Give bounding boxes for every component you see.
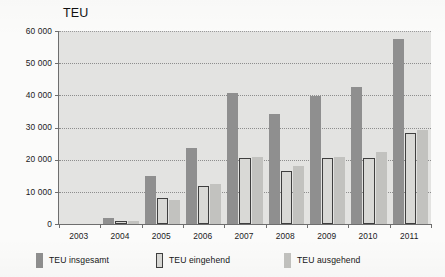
legend-swatch-icon-insgesamt: [36, 253, 43, 268]
bar-2009-series-2[interactable]: [334, 157, 345, 224]
gridline: [59, 128, 431, 129]
y-axis-label: 60 000: [0, 26, 52, 36]
legend-swatch-icon-eingehend: [156, 253, 163, 268]
gridline: [59, 63, 431, 64]
y-axis-label: 50 000: [0, 58, 52, 68]
bar-2004-series-2[interactable]: [128, 221, 139, 224]
x-axis-label-2007: 2007: [224, 231, 264, 241]
gridline: [59, 95, 431, 96]
chart-figure: TEU TEU insgesamt TEU eingehend TEU ausg…: [0, 0, 445, 277]
bar-2011-series-1[interactable]: [405, 133, 416, 224]
x-axis-tick: [431, 224, 432, 228]
bar-2008-series-0[interactable]: [269, 114, 280, 224]
y-axis-tick: [55, 128, 59, 129]
x-axis-tick: [266, 224, 267, 228]
x-axis-tick: [307, 224, 308, 228]
x-axis-label-2003: 2003: [59, 231, 99, 241]
bar-2009-series-1[interactable]: [322, 158, 333, 224]
y-axis-tick: [55, 31, 59, 32]
bar-2005-series-2[interactable]: [169, 200, 180, 224]
x-axis-label-2010: 2010: [348, 231, 388, 241]
bar-2005-series-1[interactable]: [157, 198, 168, 224]
bar-2006-series-0[interactable]: [186, 148, 197, 224]
y-axis-tick: [55, 160, 59, 161]
bar-2011-series-0[interactable]: [393, 39, 404, 224]
bar-2008-series-1[interactable]: [281, 171, 292, 224]
bar-2007-series-1[interactable]: [239, 158, 250, 224]
gridline: [59, 31, 431, 32]
bar-2006-series-2[interactable]: [210, 184, 221, 224]
bar-2008-series-2[interactable]: [293, 166, 304, 224]
x-axis-label-2008: 2008: [265, 231, 305, 241]
bar-2007-series-0[interactable]: [227, 93, 238, 224]
bar-2004-series-1[interactable]: [115, 221, 126, 224]
x-axis-tick: [142, 224, 143, 228]
bar-2009-series-0[interactable]: [310, 96, 321, 224]
legend-item-teu-ausgehend[interactable]: TEU ausgehend: [284, 252, 360, 268]
bar-2007-series-2[interactable]: [252, 157, 263, 224]
bar-2010-series-2[interactable]: [376, 152, 387, 224]
x-axis-label-2011: 2011: [389, 231, 429, 241]
plot-inner: [59, 31, 431, 224]
x-axis-label-2009: 2009: [307, 231, 347, 241]
y-axis-tick: [55, 95, 59, 96]
y-axis-label: 10 000: [0, 187, 52, 197]
legend-label-insgesamt: TEU insgesamt: [49, 255, 109, 265]
bar-2011-series-2[interactable]: [417, 130, 428, 224]
x-axis-tick: [183, 224, 184, 228]
y-axis-tick: [55, 63, 59, 64]
bar-2004-series-0[interactable]: [103, 218, 114, 224]
plot-area: [58, 31, 431, 225]
x-axis-tick: [100, 224, 101, 228]
x-axis-label-2006: 2006: [183, 231, 223, 241]
y-axis-label: 20 000: [0, 154, 52, 164]
y-axis-label: 0: [0, 219, 52, 229]
bar-2005-series-0[interactable]: [145, 176, 156, 224]
x-axis-label-2004: 2004: [100, 231, 140, 241]
chart-title: TEU: [63, 6, 89, 20]
bar-2010-series-0[interactable]: [351, 87, 362, 224]
x-axis-tick: [348, 224, 349, 228]
legend-label-ausgehend: TEU ausgehend: [297, 255, 360, 265]
x-axis-label-2005: 2005: [141, 231, 181, 241]
legend-item-teu-insgesamt[interactable]: TEU insgesamt: [36, 252, 109, 268]
bar-2006-series-1[interactable]: [198, 186, 209, 224]
legend-label-eingehend: TEU eingehend: [169, 255, 230, 265]
y-axis-label: 30 000: [0, 122, 52, 132]
bar-2010-series-1[interactable]: [363, 158, 374, 224]
y-axis-tick: [55, 192, 59, 193]
x-axis-tick: [390, 224, 391, 228]
x-axis-tick: [59, 224, 60, 228]
y-axis-label: 40 000: [0, 90, 52, 100]
chart-legend: TEU insgesamt TEU eingehend TEU ausgehen…: [36, 252, 436, 272]
legend-item-teu-eingehend[interactable]: TEU eingehend: [156, 252, 230, 268]
x-axis-tick: [224, 224, 225, 228]
legend-swatch-icon-ausgehend: [284, 253, 291, 268]
